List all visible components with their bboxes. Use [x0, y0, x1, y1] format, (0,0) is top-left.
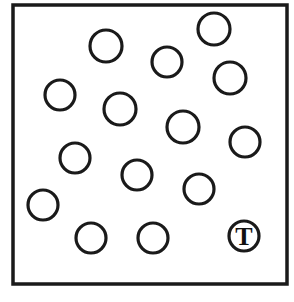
circle-label-t: T	[235, 222, 252, 251]
figure-root: T	[0, 0, 294, 302]
circles-diagram: T	[0, 0, 294, 302]
